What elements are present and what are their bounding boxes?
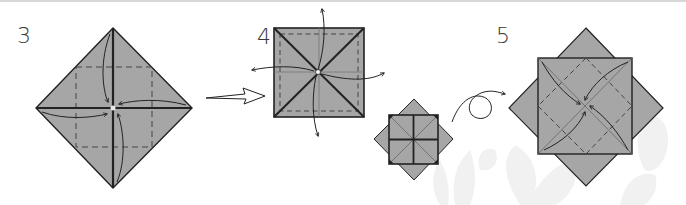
step-4-diagram — [252, 9, 384, 136]
step-3-diagram — [36, 28, 192, 188]
turn-over-arrow-icon — [452, 91, 505, 122]
hollow-arrow-icon — [206, 88, 265, 104]
diagram-canvas — [0, 0, 686, 205]
step-5-diagram — [509, 28, 663, 186]
origami-diagram: 3 4 5 — [0, 0, 686, 205]
